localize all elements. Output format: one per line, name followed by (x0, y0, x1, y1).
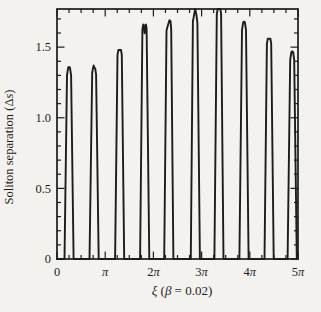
x-tick-label: 4π (244, 265, 257, 279)
x-tick-label: 0 (54, 265, 60, 279)
x-tick-label: 2π (147, 265, 160, 279)
x-tick-label: 5π (292, 265, 305, 279)
y-tick-label: 1.5 (35, 40, 51, 54)
x-axis-title: ξ (β = 0.02) (152, 283, 213, 298)
soliton-separation-chart: 0π2π3π4π5π00.51.01.5Soliton separation (… (0, 0, 321, 312)
soliton-separation-curve (57, 9, 298, 259)
x-tick-label: 3π (195, 265, 208, 279)
y-axis-title: Soliton separation (Δs) (2, 90, 16, 205)
y-tick-label: 1.0 (35, 111, 51, 125)
plot-frame (57, 9, 298, 259)
y-tick-label: 0 (45, 252, 51, 266)
x-tick-label: π (102, 265, 109, 279)
figure: 0π2π3π4π5π00.51.01.5Soliton separation (… (0, 0, 321, 312)
y-tick-label: 0.5 (35, 182, 51, 196)
